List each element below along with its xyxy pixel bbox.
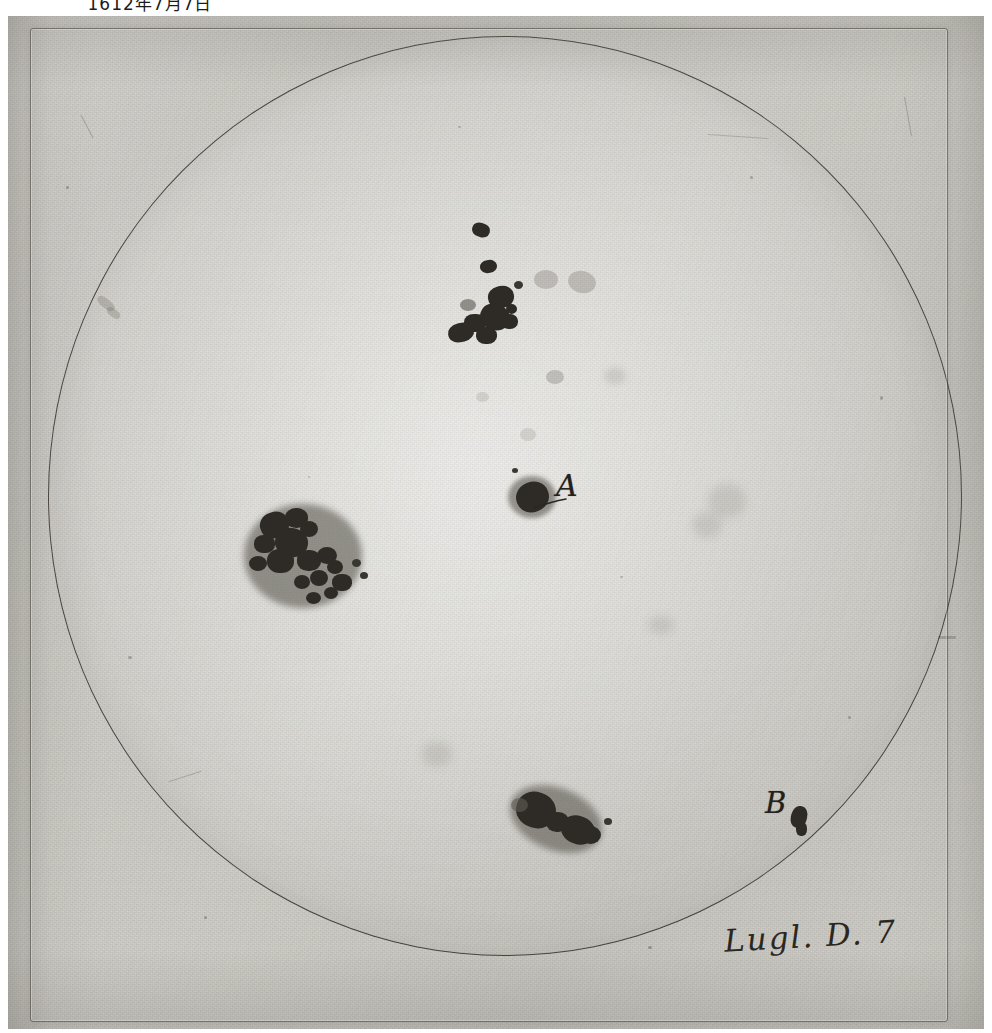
sunspot-label-A: A: [556, 468, 578, 503]
figure-caption: 1612年7月7日: [0, 0, 300, 17]
solar-disc-container: A B: [8, 16, 984, 1029]
solar-disc-outline: [48, 36, 962, 956]
sunspot-label-B: B: [765, 786, 786, 820]
engraving-plate: A B Lugl. D. 7: [8, 16, 984, 1029]
